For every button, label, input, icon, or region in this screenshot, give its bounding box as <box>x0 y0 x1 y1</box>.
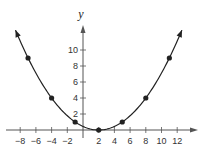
curve-right-arrow-icon <box>177 30 182 38</box>
x-tick-label: −6 <box>31 136 41 146</box>
x-tick-label: −4 <box>46 136 56 146</box>
y-tick-label: 8 <box>73 61 78 71</box>
data-point <box>120 119 125 124</box>
x-tick-label: 2 <box>96 136 101 146</box>
y-tick-label: 6 <box>73 77 78 87</box>
data-point <box>25 55 30 60</box>
x-tick-label: 10 <box>156 136 166 146</box>
curve-left-arrow-icon <box>15 30 20 38</box>
data-point <box>167 55 172 60</box>
data-point <box>96 127 101 132</box>
x-tick-label: −2 <box>62 136 72 146</box>
x-tick-label: 12 <box>172 136 182 146</box>
data-point <box>73 119 78 124</box>
x-tick-label: 8 <box>143 136 148 146</box>
x-tick-label: −8 <box>15 136 25 146</box>
x-tick-label: 4 <box>112 136 117 146</box>
x-axis-arrow-icon <box>190 128 198 133</box>
y-axis-label: y <box>77 7 84 21</box>
y-tick-label: 4 <box>73 93 78 103</box>
parabola-curve <box>15 30 181 130</box>
y-axis-arrow-icon <box>81 25 86 33</box>
parabola-chart: y−8−6−4−224681012246810 <box>0 0 202 150</box>
y-tick-label: 2 <box>73 109 78 119</box>
data-point <box>49 95 54 100</box>
x-tick-label: 6 <box>128 136 133 146</box>
data-point <box>143 95 148 100</box>
y-tick-label: 10 <box>68 45 78 55</box>
